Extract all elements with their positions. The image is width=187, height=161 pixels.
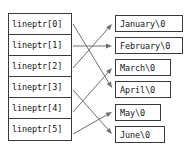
pointer-array-diagram: lineptr[0] lineptr[1] lineptr[2] lineptr… — [0, 0, 187, 161]
array-cell-label: lineptr[3] — [12, 82, 62, 92]
string-box-june: June\0 — [115, 126, 165, 143]
array-cell-label: lineptr[5] — [12, 124, 62, 134]
array-cell-3: lineptr[3] — [9, 77, 71, 98]
string-box-label: February\0 — [120, 41, 170, 51]
array-cell-1: lineptr[1] — [9, 35, 71, 56]
pointer-arrowhead — [106, 112, 112, 117]
string-box-may: May\0 — [115, 104, 161, 121]
array-cell-label: lineptr[2] — [12, 61, 62, 71]
pointer-arrowhead — [106, 68, 112, 74]
pointer-arrow-line — [73, 115, 107, 134]
string-box-march: March\0 — [115, 59, 171, 76]
pointer-arrowhead — [106, 24, 112, 30]
pointer-arrow-line — [73, 24, 109, 83]
array-cell-4: lineptr[4] — [9, 98, 71, 119]
array-cell-2: lineptr[2] — [9, 56, 71, 77]
string-box-label: May\0 — [120, 108, 145, 118]
array-cell-label: lineptr[1] — [12, 40, 62, 50]
string-box-label: April\0 — [120, 85, 155, 95]
pointer-arrow-line — [73, 72, 108, 112]
string-box-label: March\0 — [120, 63, 155, 73]
string-box-january: January\0 — [115, 15, 183, 32]
array-cell-label: lineptr[0] — [12, 19, 62, 29]
string-box-february: February\0 — [115, 37, 183, 54]
pointer-arrow-line — [73, 28, 108, 68]
string-box-label: June\0 — [120, 130, 150, 140]
array-cell-label: lineptr[4] — [12, 103, 62, 113]
string-box-april: April\0 — [115, 81, 171, 98]
pointer-arrowhead — [107, 82, 112, 88]
array-cell-0: lineptr[0] — [9, 14, 71, 35]
array-cell-5: lineptr[5] — [9, 119, 71, 140]
lineptr-array: lineptr[0] lineptr[1] lineptr[2] lineptr… — [8, 13, 72, 141]
pointer-arrowhead — [106, 44, 112, 49]
pointer-arrowhead — [106, 128, 112, 134]
pointer-arrow-line — [73, 90, 108, 130]
string-box-label: January\0 — [120, 19, 165, 29]
